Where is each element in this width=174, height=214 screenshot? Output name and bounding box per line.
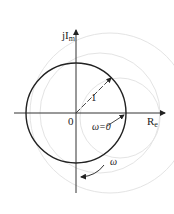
origin-label: 0 <box>68 116 74 127</box>
omega-direction-label: ω <box>110 157 117 167</box>
omega-zero-label: ω=0 <box>92 122 111 132</box>
polar-diagram: jIm Re 0 1 ω=0 ω <box>0 0 174 214</box>
real-axis-label: Re <box>147 116 158 129</box>
diagram-canvas <box>0 0 174 214</box>
radius-label: 1 <box>91 92 97 103</box>
imag-axis-label: jIm <box>62 30 75 43</box>
